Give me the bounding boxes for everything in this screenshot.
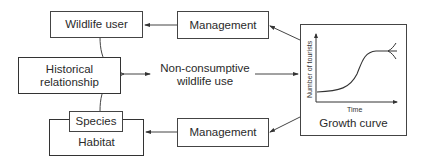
edge-growth-to-management-top [270, 26, 300, 40]
s-curve [317, 51, 388, 92]
historical-label-line1: Historical [46, 63, 93, 76]
wildlife-user-label: Wildlife user [65, 18, 128, 31]
management-bottom-label: Management [189, 126, 256, 139]
management-top-label: Management [189, 19, 256, 32]
branch-down [388, 51, 396, 59]
wildlife-user-node: Wildlife user [50, 11, 143, 38]
historical-relationship-node: Historical relationship [18, 57, 121, 94]
edge-growth-to-management-bottom [270, 117, 300, 132]
center-label-line1: Non-consumptive [155, 62, 255, 75]
x-axis-label: Time [347, 106, 362, 113]
species-label: Species [76, 115, 117, 128]
center-label-line2: wildlife use [155, 75, 255, 88]
y-axis-label: Number of tourists [306, 40, 313, 98]
branch-up [388, 43, 396, 51]
historical-label-line2: relationship [40, 76, 99, 89]
management-top-node: Management [177, 11, 269, 39]
habitat-label: Habitat [78, 136, 114, 149]
growth-curve-chart: Number of tourists Time [300, 24, 407, 136]
management-bottom-node: Management [177, 118, 269, 147]
species-node: Species [69, 111, 123, 132]
center-node: Non-consumptive wildlife use [155, 62, 255, 88]
